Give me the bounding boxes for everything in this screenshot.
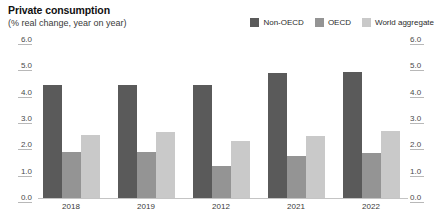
y-axis-tick-rule: [18, 70, 32, 71]
y-axis-tick-label: 6.0: [410, 36, 421, 44]
legend-label: Non-OECD: [263, 18, 303, 27]
y-axis-tick-label: 2.0: [21, 141, 32, 149]
y-axis-tick-rule: [410, 149, 424, 150]
y-axis-tick-label: 3.0: [410, 115, 421, 123]
bar-group: [338, 40, 404, 198]
y-axis-tick-label: 1.0: [410, 168, 421, 176]
bar[interactable]: [81, 135, 100, 198]
y-axis-tick-rule: [18, 202, 32, 203]
bar[interactable]: [231, 141, 250, 198]
x-axis-label: 2012: [188, 200, 254, 214]
legend-item-oecd[interactable]: OECD: [315, 18, 351, 27]
chart-subtitle: (% real change, year on year): [8, 18, 127, 28]
y-axis-tick-rule: [18, 149, 32, 150]
bar[interactable]: [343, 72, 362, 198]
y-axis-tick-label: 5.0: [410, 62, 421, 70]
bar[interactable]: [193, 85, 212, 198]
bar-group: [263, 40, 329, 198]
y-axis-tick-rule: [410, 44, 424, 45]
chart-container: Private consumption (% real change, year…: [0, 0, 442, 224]
chart-footnote: [8, 216, 438, 224]
plot-area: [38, 40, 404, 198]
y-axis-tick-rule: [410, 176, 424, 177]
bar[interactable]: [43, 85, 62, 198]
chart-legend: Non-OECD OECD World aggregate: [250, 16, 434, 28]
legend-label: OECD: [328, 18, 351, 27]
bar[interactable]: [362, 153, 381, 198]
chart-title: Private consumption: [8, 4, 110, 16]
legend-item-world-aggregate[interactable]: World aggregate: [362, 18, 434, 27]
bar[interactable]: [381, 131, 400, 198]
legend-label: World aggregate: [375, 18, 434, 27]
bar-groups: [38, 40, 404, 198]
legend-item-non-oecd[interactable]: Non-OECD: [250, 18, 303, 27]
legend-swatch-icon: [315, 18, 324, 27]
legend-swatch-icon: [362, 18, 371, 27]
x-axis-label: 2018: [38, 200, 104, 214]
y-axis-right: 6.05.04.03.02.01.00.0: [408, 40, 438, 198]
y-axis-tick-rule: [410, 70, 424, 71]
bar[interactable]: [62, 152, 81, 198]
bar-group: [38, 40, 104, 198]
y-axis-tick-label: 6.0: [21, 36, 32, 44]
x-axis-labels: 20182019201220212022: [38, 200, 404, 214]
y-axis-tick-label: 4.0: [410, 89, 421, 97]
x-axis-baseline: [38, 198, 408, 199]
bar-group: [188, 40, 254, 198]
y-axis-tick-rule: [410, 202, 424, 203]
bar[interactable]: [212, 166, 231, 198]
bar[interactable]: [268, 73, 287, 198]
y-axis-tick-label: 4.0: [21, 89, 32, 97]
y-axis-tick-label: 5.0: [21, 62, 32, 70]
y-axis-tick-rule: [18, 176, 32, 177]
y-axis-tick-label: 0.0: [21, 194, 32, 202]
y-axis-tick-label: 3.0: [21, 115, 32, 123]
y-axis-tick-rule: [410, 97, 424, 98]
y-axis-tick-label: 1.0: [21, 168, 32, 176]
y-axis-tick-rule: [18, 123, 32, 124]
bar[interactable]: [306, 136, 325, 198]
legend-swatch-icon: [250, 18, 259, 27]
y-axis-left: 6.05.04.03.02.01.00.0: [4, 40, 34, 198]
x-axis-label: 2022: [338, 200, 404, 214]
bar[interactable]: [287, 156, 306, 198]
bar[interactable]: [118, 85, 137, 198]
bar-group: [113, 40, 179, 198]
y-axis-tick-rule: [18, 97, 32, 98]
y-axis-tick-label: 0.0: [410, 194, 421, 202]
y-axis-tick-label: 2.0: [410, 141, 421, 149]
x-axis-label: 2021: [263, 200, 329, 214]
bar[interactable]: [156, 132, 175, 198]
x-axis-label: 2019: [113, 200, 179, 214]
bar[interactable]: [137, 152, 156, 198]
y-axis-tick-rule: [18, 44, 32, 45]
y-axis-tick-rule: [410, 123, 424, 124]
